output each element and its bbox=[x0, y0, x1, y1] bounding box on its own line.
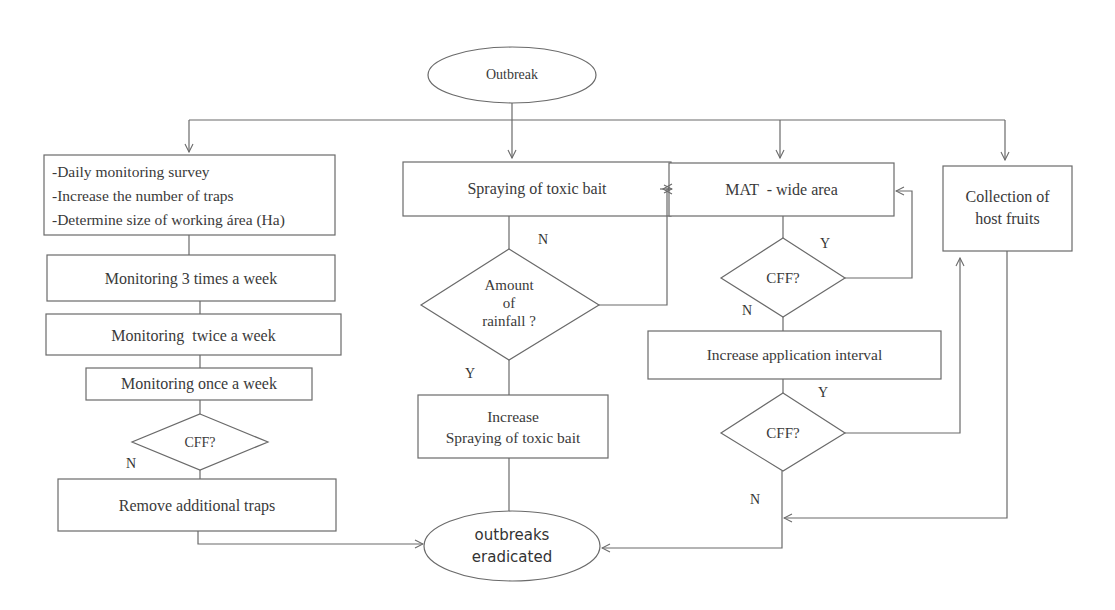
mat-wide-area-label: MAT - wide area bbox=[669, 180, 894, 199]
end-line1: outbreaks bbox=[424, 524, 600, 546]
rainfall-yes-label: Y bbox=[465, 366, 475, 382]
monitoring-twice-label: Monitoring twice a week bbox=[46, 326, 341, 345]
collection-host-fruits-text: Collection of host fruits bbox=[943, 186, 1072, 230]
mat-cff1-label: CFF? bbox=[743, 269, 823, 288]
left-cff-label: CFF? bbox=[160, 433, 240, 452]
rainfall-no-label: N bbox=[538, 232, 548, 248]
rainfall-line3: rainfall ? bbox=[459, 312, 559, 330]
collection-line1: Collection of bbox=[943, 186, 1072, 208]
rainfall-line2: of bbox=[459, 294, 559, 312]
rainfall-line1: Amount bbox=[459, 276, 559, 294]
mat-cff1-no-label: N bbox=[742, 303, 752, 319]
rainfall-decision-text: Amount of rainfall ? bbox=[459, 276, 559, 330]
remove-traps-label: Remove additional traps bbox=[58, 496, 336, 515]
monitoring-once-label: Monitoring once a week bbox=[86, 374, 312, 393]
mat-cff1-yes-label: Y bbox=[820, 236, 830, 252]
increase-interval-label: Increase application interval bbox=[648, 345, 941, 364]
end-line2: eradicated bbox=[424, 546, 600, 568]
flowchart-canvas: Outbreak -Daily monitoring survey -Incre… bbox=[0, 0, 1115, 610]
collection-line2: host fruits bbox=[943, 208, 1072, 230]
spraying-toxic-bait-label: Spraying of toxic bait bbox=[403, 179, 671, 198]
daily-monitoring-line2: -Increase the number of traps bbox=[52, 184, 285, 208]
monitoring-3-times-label: Monitoring 3 times a week bbox=[47, 269, 335, 288]
increase-spraying-line2: Spraying of toxic bait bbox=[418, 427, 608, 448]
left-cff-no-label: N bbox=[126, 456, 136, 472]
daily-monitoring-text: -Daily monitoring survey -Increase the n… bbox=[52, 160, 285, 232]
mat-cff2-label: CFF? bbox=[743, 424, 823, 443]
end-label: outbreaks eradicated bbox=[424, 524, 600, 568]
mat-cff2-no-label: N bbox=[750, 492, 760, 508]
start-label: Outbreak bbox=[462, 65, 562, 84]
daily-monitoring-line3: -Determine size of working área (Ha) bbox=[52, 208, 285, 232]
increase-spraying-line1: Increase bbox=[418, 406, 608, 427]
daily-monitoring-line1: -Daily monitoring survey bbox=[52, 160, 285, 184]
mat-cff2-yes-label: Y bbox=[818, 385, 828, 401]
increase-spraying-text: Increase Spraying of toxic bait bbox=[418, 406, 608, 448]
